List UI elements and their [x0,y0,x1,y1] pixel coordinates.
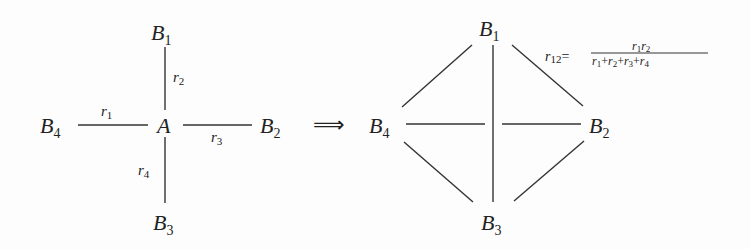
edge-b2-b3 [514,141,584,201]
node-b1: B1 [151,20,171,48]
r12-formula: r12= r1r2 r1+r2+r3+r4 [545,39,708,69]
formula-lhs: r12= [545,49,569,65]
node-a: A [155,113,171,138]
resistor-r4: r4 [138,162,150,180]
star-network: B1 B2 B3 B4 A r1 r2 r3 r4 [40,20,280,238]
resistor-r1: r1 [101,103,112,121]
node-b4: B4 [40,113,60,141]
resistor-r2: r2 [173,69,184,87]
mesh-node-b1: B1 [479,16,499,44]
mesh-node-b4: B4 [369,113,389,141]
star-delta-diagram: B1 B2 B3 B4 A r1 r2 r3 r4 ⟹ B1 B2 B3 B4 … [0,0,750,249]
mesh-node-b2: B2 [589,113,609,141]
mesh-network: B1 B2 B3 B4 r12= r1r2 r1+r2+r3+r4 [369,16,708,238]
formula-denominator: r1+r2+r3+r4 [592,54,650,69]
node-b3: B3 [153,210,173,238]
node-b2: B2 [260,113,280,141]
edge-b4-b3 [404,142,473,202]
mesh-node-b3: B3 [481,210,501,238]
edge-b1-b4 [402,45,472,107]
formula-numerator: r1r2 [632,39,650,54]
implies-arrow-icon: ⟹ [313,112,345,137]
resistor-r3: r3 [211,129,223,147]
